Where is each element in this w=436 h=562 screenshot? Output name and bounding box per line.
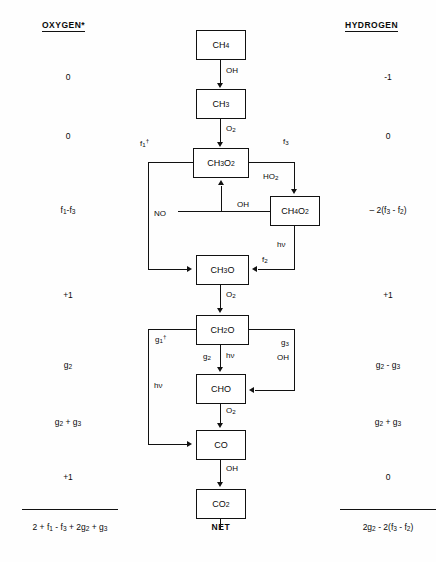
- oxygen-value-2: 0: [66, 131, 71, 141]
- edge-label-f2: f2: [262, 255, 268, 264]
- edge-g3-oh-vertical: [294, 329, 295, 391]
- node-co: CO: [196, 430, 246, 460]
- edge-label-oh-3: OH: [277, 353, 289, 362]
- edge-label-g3: g3: [281, 338, 289, 347]
- oxygen-net-rule: [22, 509, 118, 510]
- edge-ch3o-ch2o: [220, 285, 221, 309]
- edge-ch3-ch3o2: [220, 119, 221, 143]
- edge-hv-f2-vertical: [294, 226, 295, 270]
- edge-label-f3: f3: [283, 137, 289, 146]
- hydrogen-value-6: g2 + g3: [375, 417, 402, 427]
- node-ch3: CH3: [196, 89, 246, 119]
- edge-ch4o2-oh-horizontal: [178, 211, 270, 212]
- node-ch4o2: CH4O2: [270, 196, 320, 226]
- edge-label-oh-2: OH: [237, 200, 249, 209]
- arrowhead-ch4-ch3: [217, 83, 223, 88]
- oxygen-value-5: g2: [64, 360, 72, 370]
- hydrogen-value-2: 0: [386, 131, 391, 141]
- arrowhead-ch3o-ch2o: [217, 308, 223, 313]
- edge-oh-up-vertical: [221, 186, 222, 212]
- edge-g1-hv-vertical: [148, 329, 149, 445]
- hydrogen-value-4: +1: [383, 290, 393, 300]
- edge-label-hv-1: hν: [277, 240, 285, 249]
- hydrogen-value-1: -1: [384, 72, 392, 82]
- edge-f2-horizontal: [258, 269, 295, 270]
- oxygen-value-7: +1: [63, 472, 73, 482]
- edge-label-g2: g2: [203, 352, 211, 361]
- edge-ch3o2-right-branch: [249, 162, 295, 163]
- node-ch2o: CH2O: [196, 315, 249, 345]
- edge-ch3o2-left-branch: [148, 162, 193, 163]
- edge-no-vertical: [148, 162, 149, 270]
- edge-label-hv-3: hν: [154, 381, 162, 390]
- oxygen-value-1: 0: [66, 72, 71, 82]
- arrowhead-ho2-ch4o2: [291, 189, 297, 194]
- edge-label-o2-1: O2: [226, 124, 236, 133]
- node-co2: CO2: [196, 489, 246, 519]
- node-ch3o2: CH3O2: [193, 148, 249, 178]
- edge-label-g1: g1†: [155, 333, 166, 344]
- node-cho: CHO: [196, 374, 246, 404]
- hydrogen-value-3: – 2(f3 - f2): [369, 205, 406, 215]
- node-ch3o: CH3O: [196, 255, 249, 285]
- edge-label-no: NO: [154, 209, 166, 218]
- edge-label-hv-2: hν: [226, 351, 234, 360]
- edge-label-oh-1: OH: [226, 66, 238, 75]
- hydrogen-net-total: 2g2 - 2(f3 - f2): [363, 522, 414, 532]
- arrowhead-f2-ch3o: [252, 266, 257, 272]
- edge-no-to-ch3o: [148, 269, 188, 270]
- edge-ch2o-left-branch: [148, 329, 196, 330]
- oxygen-net-total: 2 + f1 - f3 + 2g2 + g3: [33, 522, 108, 532]
- oxygen-value-4: +1: [63, 290, 73, 300]
- edge-cho-co: [220, 404, 221, 424]
- edge-label-o2-2: O2: [226, 290, 236, 299]
- arrowhead-no-ch3o: [187, 266, 192, 272]
- hydrogen-net-rule: [340, 509, 436, 510]
- arrowhead-cho-co: [217, 423, 223, 428]
- edge-label-ho2: HO2: [263, 172, 278, 181]
- arrowhead-ch2o-cho: [217, 367, 223, 372]
- hydrogen-value-5: g2 - g3: [376, 360, 400, 370]
- edge-oh-to-cho: [255, 390, 295, 391]
- hydrogen-value-7: 0: [386, 472, 391, 482]
- arrowhead-g1-co: [187, 441, 192, 447]
- edge-label-f1: f1†: [140, 137, 149, 148]
- arrowhead-oh-ch3o2: [218, 180, 224, 185]
- oxygen-value-3: f1-f3: [61, 205, 76, 215]
- arrowhead-oh-cho: [249, 387, 254, 393]
- column-header-oxygen: OXYGEN*: [42, 20, 85, 32]
- node-ch4: CH4: [196, 30, 246, 60]
- edge-ch2o-right-branch: [249, 329, 295, 330]
- arrowhead-co-co2: [217, 482, 223, 487]
- edge-label-o2-3: O2: [226, 406, 236, 415]
- edge-co-co2: [220, 460, 221, 483]
- edge-co2-tail: [220, 519, 221, 529]
- edge-ho2-vertical: [294, 162, 295, 190]
- column-header-hydrogen: HYDROGEN: [345, 20, 398, 32]
- edge-ch2o-cho: [220, 345, 221, 368]
- arrowhead-ch3-ch3o2: [217, 142, 223, 147]
- edge-g1-to-co: [148, 444, 188, 445]
- edge-label-oh-4: OH: [226, 464, 238, 473]
- edge-ch4-ch3: [220, 60, 221, 84]
- oxygen-value-6: g2 + g3: [55, 417, 82, 427]
